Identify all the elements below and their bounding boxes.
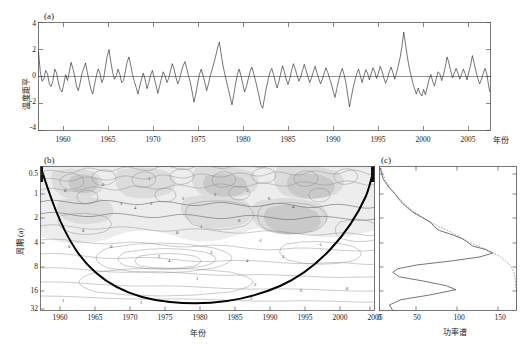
- svg-text:5: 5: [246, 188, 249, 193]
- svg-text:4: 4: [134, 205, 137, 210]
- panel-a-frame: [39, 23, 491, 131]
- panel-a-xtick-0: 1960: [48, 135, 78, 144]
- panel-c-global-spectrum-curve: [380, 168, 492, 310]
- panel-a-ytick-1: 2: [22, 45, 36, 54]
- panel-b-cone-of-influence: [41, 168, 374, 303]
- svg-text:1: 1: [196, 276, 199, 281]
- panel-a-xtick-4: 1980: [228, 135, 258, 144]
- panel-b-xtick-8: 2000: [325, 313, 355, 322]
- panel-c-label: (c): [381, 155, 391, 165]
- svg-text:-1: -1: [318, 242, 323, 247]
- panel-c-xticks: [380, 167, 499, 311]
- panel-a-xticks: [64, 23, 469, 131]
- svg-text:0: 0: [64, 188, 67, 193]
- panel-b-ytick-6: 32: [16, 304, 38, 313]
- svg-text:1: 1: [62, 298, 65, 303]
- panel-b-xtick-1: 1965: [80, 313, 110, 322]
- panel-b-edge-left: [40, 166, 43, 182]
- panel-c-yticks: [380, 174, 517, 291]
- panel-c-xlabel: 功率谱: [443, 326, 467, 337]
- svg-text:0: 0: [102, 182, 105, 187]
- panel-b-ytick-4: 8: [18, 262, 38, 271]
- panel-a-ytick-3: -2: [19, 97, 36, 106]
- panel-a-plot: [0, 0, 532, 347]
- panel-b-yticks: [41, 174, 45, 309]
- svg-text:0: 0: [82, 228, 85, 233]
- panel-b-xtick-5: 1985: [220, 313, 250, 322]
- panel-c-significance-curve: [381, 168, 516, 310]
- svg-text:4: 4: [168, 258, 171, 263]
- panel-a-xtick-7: 1995: [363, 135, 393, 144]
- svg-text:1: 1: [140, 300, 143, 305]
- svg-text:0: 0: [176, 230, 179, 235]
- panel-b-ytick-1: 1: [18, 189, 38, 198]
- panel-b-xtick-2: 1970: [115, 313, 145, 322]
- svg-text:6: 6: [238, 218, 241, 223]
- panel-b-xtick-0: 1960: [45, 313, 75, 322]
- panel-b-wavelet-field: 0 0 1 3 4 2 2 2 5 6 4 6 1 0 0 0 0 2 4 3: [40, 161, 375, 305]
- panel-b-plot: 0 0 1 3 4 2 2 2 5 6 4 6 1 0 0 0 0 2 4 3: [0, 0, 532, 347]
- panel-b-xtick-3: 1975: [150, 313, 180, 322]
- panel-a-xtick-5: 1985: [273, 135, 303, 144]
- panel-a-xtick-2: 1970: [138, 135, 168, 144]
- panel-c-plot: [0, 0, 532, 347]
- svg-text:2: 2: [254, 282, 257, 287]
- panel-a-ytick-4: -4: [19, 123, 36, 132]
- svg-text:0: 0: [110, 244, 113, 249]
- panel-c-xtick-2: 100: [448, 313, 470, 322]
- svg-text:3: 3: [120, 201, 123, 206]
- panel-a-ytick-2: 0: [22, 71, 36, 80]
- svg-text:4: 4: [246, 258, 249, 263]
- svg-text:0: 0: [68, 244, 71, 249]
- panel-b-frame: [41, 167, 375, 311]
- panel-c-xtick-0: 0: [371, 313, 387, 322]
- panel-b-xtick-4: 1980: [185, 313, 215, 322]
- panel-a-series-line: [39, 32, 490, 108]
- figure-root: (a) 温度距平 年份 4 2 0 -2 -4 1960 1965 1970 1…: [0, 0, 532, 347]
- panel-b-contours: [40, 161, 375, 302]
- svg-text:-1: -1: [258, 238, 263, 243]
- panel-a-xlabel: 年份: [493, 134, 509, 145]
- panel-a-label: (a): [44, 11, 54, 21]
- panel-b-ytick-5: 16: [16, 286, 38, 295]
- panel-b-xlabel: 年份: [190, 327, 206, 338]
- panel-b-xtick-7: 1995: [290, 313, 320, 322]
- svg-text:2: 2: [158, 254, 161, 259]
- panel-a-ytick-0: 4: [22, 19, 36, 28]
- svg-text:3: 3: [282, 254, 285, 259]
- panel-b-shading: [40, 165, 375, 243]
- panel-a-xtick-9: 2005: [453, 135, 483, 144]
- panel-b-ytick-0: 0.5: [18, 169, 38, 178]
- panel-b-xticks: [60, 307, 370, 311]
- panel-b-contour-labels: 0 0 1 3 4 2 2 2 5 6 4 6 1 0 0 0 0 2 4 3: [62, 176, 349, 305]
- panel-a-xtick-1: 1965: [93, 135, 123, 144]
- panel-a-xtick-3: 1975: [183, 135, 213, 144]
- svg-text:1: 1: [200, 224, 203, 229]
- svg-text:4: 4: [292, 204, 295, 209]
- svg-text:2: 2: [182, 196, 185, 201]
- svg-text:0: 0: [346, 286, 349, 291]
- svg-text:3: 3: [210, 250, 213, 255]
- panel-c-frame: [380, 167, 517, 311]
- panel-c-xtick-1: 50: [407, 313, 427, 322]
- svg-text:6: 6: [268, 196, 271, 201]
- panel-b-xtick-6: 1990: [255, 313, 285, 322]
- panel-b-edge-right: [371, 166, 375, 182]
- svg-text:2: 2: [250, 296, 253, 301]
- panel-a-xtick-8: 2000: [408, 135, 438, 144]
- panel-b-ytick-2: 2: [18, 213, 38, 222]
- panel-b-ytick-3: 4: [18, 238, 38, 247]
- panel-a-yticks: [39, 23, 491, 131]
- svg-text:2: 2: [214, 192, 217, 197]
- panel-c-xtick-3: 150: [489, 313, 511, 322]
- panel-b-label: (b): [44, 155, 55, 165]
- svg-text:1: 1: [148, 176, 151, 181]
- svg-text:2: 2: [150, 201, 153, 206]
- panel-a-xtick-6: 1990: [318, 135, 348, 144]
- svg-text:6: 6: [300, 288, 303, 293]
